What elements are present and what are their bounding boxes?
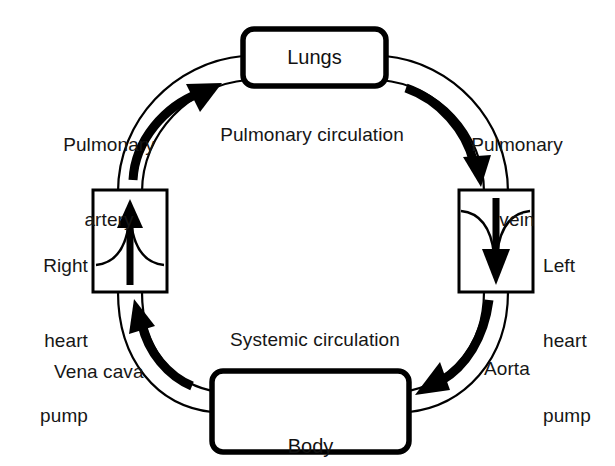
pulmonary-artery-label-line-2: artery	[33, 207, 185, 232]
aorta-label: Aorta	[484, 356, 574, 381]
pulmonary-vein-label: Pulmonary vein	[452, 82, 582, 282]
outer-arc-bottom-left	[118, 292, 212, 412]
pulmonary-circulation-label: Pulmonary circulation	[197, 122, 427, 147]
left-heart-pump-label-line-2: heart	[543, 328, 615, 353]
body-label-line-1: Body	[212, 433, 409, 459]
body-label: Body (non-lung tissues)	[212, 381, 409, 466]
circulation-diagram: Lungs Body (non-lung tissues) Right hear…	[0, 0, 615, 466]
systemic-circulation-label: Systemic circulation	[200, 327, 430, 352]
outer-arc-bottom-right	[409, 292, 508, 412]
right-heart-pump-label-line-3: pump	[0, 403, 88, 428]
pulmonary-artery-label-line-1: Pulmonary	[33, 132, 185, 157]
pulmonary-vein-label-line-1: Pulmonary	[452, 132, 582, 157]
lungs-label: Lungs	[243, 44, 386, 70]
left-heart-pump-label-line-3: pump	[543, 403, 615, 428]
right-heart-pump-label-line-2: heart	[0, 328, 88, 353]
pulmonary-vein-label-line-2: vein	[452, 207, 582, 232]
vena-cava-label: Vena cava	[54, 359, 174, 384]
pulmonary-artery-label: Pulmonary artery	[33, 82, 185, 282]
